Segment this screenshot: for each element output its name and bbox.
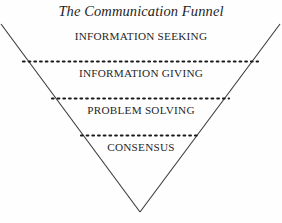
- funnel-tier-label-information-giving: INFORMATION GIVING: [0, 68, 282, 79]
- communication-funnel-figure: The Communication Funnel INFORMATION SEE…: [0, 0, 282, 223]
- funnel-left-edge: [1, 24, 140, 212]
- funnel-right-edge: [140, 24, 280, 212]
- page-title: The Communication Funnel: [0, 4, 282, 19]
- funnel-tier-label-problem-solving: PROBLEM SOLVING: [0, 105, 282, 116]
- funnel-tier-label-information-seeking: INFORMATION SEEKING: [0, 31, 282, 42]
- funnel-tier-label-consensus: CONSENSUS: [0, 142, 282, 153]
